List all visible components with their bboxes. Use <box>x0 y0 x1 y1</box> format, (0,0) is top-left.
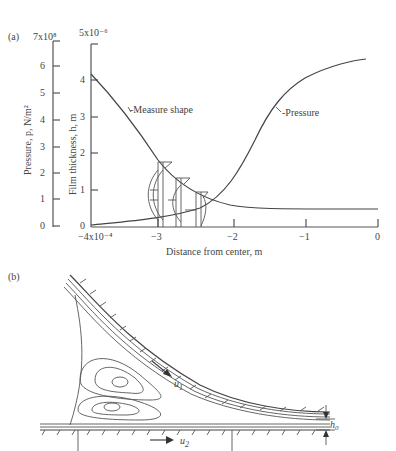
measure-shape-label: -Measure shape <box>130 104 194 115</box>
film-axis: 4 3 2 1 0 Film thickness, h, m <box>67 44 98 231</box>
x-tick: −4x10⁻⁴ <box>78 231 113 242</box>
pressure-tick: 4 <box>40 114 45 125</box>
pressure-axis-title: Pressure, p, N/m² <box>22 105 33 175</box>
x-axis: −4x10⁻⁴ −3 −2 −1 0 Distance from center,… <box>78 219 380 257</box>
x-tick: −3 <box>151 231 162 242</box>
u2-arrow-icon <box>166 436 174 444</box>
flow-diagram: u1 u2 h0 <box>40 275 339 451</box>
measure-shape-curve <box>91 74 378 209</box>
pressure-tick: 1 <box>40 193 45 204</box>
film-tick: 1 <box>80 184 85 195</box>
pressure-tick: 6 <box>40 60 45 71</box>
film-axis-title: Film thickness, h, m <box>67 113 78 195</box>
pressure-label: -Pressure <box>282 107 320 118</box>
pressure-axis: 6 5 4 3 2 1 0 Pressure, p, N/m² <box>22 41 60 231</box>
film-tick: 2 <box>80 147 85 158</box>
h0-arrow-up-icon <box>323 430 329 437</box>
u2-label: u2 <box>180 435 189 449</box>
x-tick: −1 <box>299 231 310 242</box>
pressure-exponent-label: 7x10⁸ <box>33 31 57 42</box>
pressure-tick: 5 <box>40 87 45 98</box>
pressure-tick: 0 <box>40 220 45 231</box>
u1-arrow-icon <box>163 369 172 377</box>
u1-label: u1 <box>174 378 183 392</box>
figure-canvas: (a) 7x10⁸ 5x10⁻⁶ 6 5 4 3 2 1 0 Pressure,… <box>0 0 396 451</box>
x-tick: −2 <box>227 231 238 242</box>
h0-arrow-down-icon <box>323 412 329 419</box>
panel-a-label: (a) <box>8 31 19 43</box>
panel-b-label: (b) <box>8 271 20 283</box>
x-tick: 0 <box>375 231 380 242</box>
film-tick: 3 <box>80 111 85 122</box>
film-exponent-label: 5x10⁻⁶ <box>79 27 108 38</box>
film-tick: 4 <box>80 74 85 85</box>
pressure-tick: 2 <box>40 167 45 178</box>
film-tick: 0 <box>80 220 85 231</box>
pressure-tick: 3 <box>40 141 45 152</box>
pressure-curve <box>91 59 366 225</box>
x-axis-title: Distance from center, m <box>166 246 262 257</box>
